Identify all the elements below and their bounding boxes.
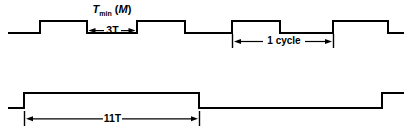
bottom-waveform-group	[8, 93, 404, 108]
tmin-label-close-paren: )	[128, 3, 132, 15]
tmin-label: Tmin (M)	[93, 3, 132, 17]
timing-diagram-svg: Tmin (M) 3T	[0, 0, 411, 132]
eleven-t-right-arrowhead	[191, 116, 198, 121]
long-pulse-waveform-path	[8, 93, 404, 108]
top-waveform-group	[8, 21, 404, 33]
three-t-label: 3T	[106, 24, 119, 36]
tmin-label-subscript: min	[99, 10, 111, 17]
one-cycle-label: 1 cycle	[267, 35, 301, 46]
one-cycle-left-arrowhead	[234, 39, 241, 44]
clock-waveform-path	[8, 21, 404, 33]
eleven-t-left-arrowhead	[26, 116, 33, 121]
one-cycle-right-arrowhead	[325, 39, 332, 44]
eleven-t-label: 11T	[104, 112, 122, 124]
eleven-t-dimension-group: 11T	[25, 111, 200, 126]
tmin-label-group: Tmin (M)	[93, 3, 132, 17]
one-cycle-dimension-group: 1 cycle	[233, 34, 334, 48]
timing-diagram-figure: Tmin (M) 3T	[0, 0, 411, 132]
